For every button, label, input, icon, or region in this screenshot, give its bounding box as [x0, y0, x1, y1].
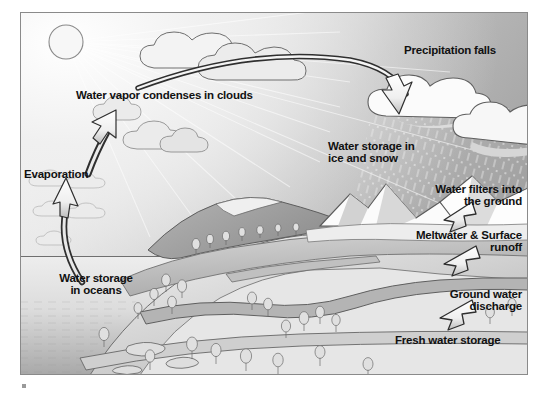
- corner-artifact: [22, 384, 26, 388]
- label-water-vapor-condenses: Water vapor condenses in clouds: [76, 89, 253, 101]
- label-ground-water-discharge: Ground water discharge: [450, 288, 522, 313]
- label-precipitation-falls: Precipitation falls: [404, 44, 496, 56]
- label-water-storage-ice-snow: Water storage in ice and snow: [328, 140, 414, 165]
- illustration-frame: Evaporation Water vapor condenses in clo…: [20, 12, 528, 375]
- label-fresh-water-storage: Fresh water storage: [395, 334, 501, 346]
- water-cycle-figure: Evaporation Water vapor condenses in clo…: [0, 0, 548, 396]
- sun-icon: [49, 25, 83, 59]
- label-meltwater-surface-runoff: Meltwater & Surface runoff: [416, 229, 522, 254]
- label-evaporation: Evaporation: [24, 168, 88, 180]
- label-water-storage-oceans: Water storage in oceans: [46, 272, 146, 297]
- label-water-filters-ground: Water filters into the ground: [435, 183, 522, 208]
